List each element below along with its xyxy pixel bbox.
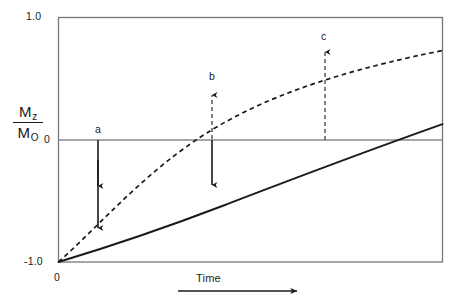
y-tick-label-top: 1.0 xyxy=(26,11,41,22)
y-axis-numerator-subscript: z xyxy=(32,111,37,122)
annotation-label-b: b xyxy=(209,71,215,82)
y-tick-label-zero: 0 xyxy=(44,134,50,145)
y-axis-label: Mz MO xyxy=(8,104,48,141)
y-axis-denominator-subscript: O xyxy=(31,132,39,143)
fraction-bar xyxy=(13,122,43,123)
solid-recovery-curve xyxy=(59,124,443,262)
y-axis-denominator: MO xyxy=(8,125,48,141)
dashed-recovery-curve xyxy=(59,51,443,263)
origin-label: 0 xyxy=(54,272,60,283)
y-axis-numerator: Mz xyxy=(8,104,48,120)
plot-canvas xyxy=(0,0,455,305)
relaxation-curve-figure: Mz MO 1.0 0 -1.0 0 Time a b c xyxy=(0,0,455,305)
y-tick-label-bottom: -1.0 xyxy=(24,256,43,267)
x-axis-label: Time xyxy=(196,272,221,284)
annotation-label-a: a xyxy=(95,124,101,135)
annotation-label-c: c xyxy=(321,31,326,42)
